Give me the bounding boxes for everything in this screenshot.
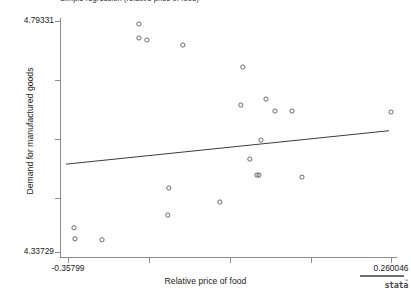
scatter-point <box>248 157 252 161</box>
y-axis-tick-label-max: 4.79331 <box>6 15 54 25</box>
scatter-point <box>137 36 141 40</box>
fit-line <box>66 131 389 164</box>
scatter-markers <box>72 22 393 242</box>
scatter-point <box>273 109 277 113</box>
scatter-point <box>241 65 245 69</box>
regression-fit-line <box>66 131 389 164</box>
scatter-point <box>389 110 393 114</box>
scatter-point <box>239 103 243 107</box>
x-axis-ticks <box>69 258 392 263</box>
stata-graph-window: Simple regression (relative price of foo… <box>0 0 411 299</box>
scatter-point <box>167 186 171 190</box>
scatter-point <box>137 22 141 26</box>
scatter-point <box>259 138 263 142</box>
scatter-point <box>166 213 170 217</box>
scatter-point <box>181 43 185 47</box>
scatter-point <box>264 97 268 101</box>
y-axis-tick-label-min: 4.33729 <box>6 246 54 256</box>
scatter-point <box>73 237 77 241</box>
x-axis-title: Relative price of food <box>0 276 411 286</box>
scatter-point <box>145 38 149 42</box>
trademark-icon: ™ <box>404 278 408 283</box>
x-axis-tick-label-min: -0.35799 <box>28 263 108 273</box>
stata-logo: stata ™ <box>358 273 408 295</box>
scatter-point <box>100 238 104 242</box>
axis-lines <box>60 18 397 258</box>
scatter-point <box>300 175 304 179</box>
scatter-point <box>290 109 294 113</box>
scatter-point <box>218 200 222 204</box>
scatter-plot-canvas <box>0 0 411 299</box>
stata-logo-bar <box>360 275 404 277</box>
stata-logo-text: stata <box>358 280 408 290</box>
scatter-point <box>72 226 76 230</box>
y-axis-ticks <box>55 22 60 253</box>
y-axis-title: Demand for manufactured goods <box>25 46 35 216</box>
x-axis-tick-label-max: 0.260046 <box>351 263 411 273</box>
